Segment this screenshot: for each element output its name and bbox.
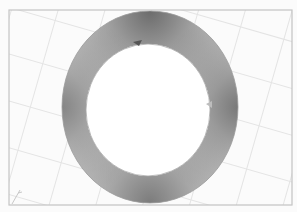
image-canvas bbox=[0, 0, 297, 212]
ring-figure bbox=[0, 0, 297, 212]
ring-hole bbox=[86, 44, 210, 176]
